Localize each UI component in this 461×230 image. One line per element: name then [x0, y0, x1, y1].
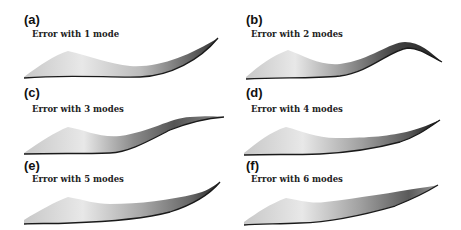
- error-surface-f: [230, 152, 460, 230]
- panel-f: (f) Error with 6 modes: [230, 152, 460, 228]
- panel-e: (e) Error with 5 modes: [0, 152, 230, 228]
- panel-d: (d) Error with 4 modes: [230, 76, 460, 152]
- panel-a: (a) Error with 1 mode: [0, 0, 230, 76]
- error-surface-c: [0, 76, 230, 156]
- panel-c: (c) Error with 3 modes: [0, 76, 230, 152]
- panel-b: (b) Error with 2 modes: [230, 0, 460, 76]
- error-surface-e: [0, 152, 230, 230]
- error-surface-a: [0, 0, 230, 80]
- error-surface-d: [230, 76, 460, 156]
- error-surface-b: [230, 0, 460, 80]
